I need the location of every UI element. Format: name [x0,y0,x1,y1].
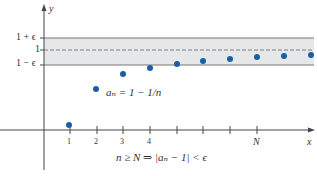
y-label-mid: 1 [35,43,40,54]
y-label-lower: 1 − ϵ [16,57,36,68]
tick-label-N: N [253,136,260,147]
tick-label-2: 2 [94,137,98,146]
formula-annotation: aₙ = 1 − 1/n [106,86,161,99]
y-axis-label: y [49,3,53,14]
tick-label-1: 1 [67,137,71,146]
implication-annotation: n ≥ N ⇒ |aₙ − 1| < ϵ [116,151,207,164]
epsilon-band [44,38,314,65]
y-label-upper: 1 + ϵ [16,31,36,42]
tick-label-4: 4 [147,137,151,146]
tick-label-3: 3 [120,137,124,146]
chart: y x 1 + ϵ 1 1 − ϵ 1 2 3 4 N aₙ = 1 − 1/n… [0,0,317,176]
x-axis-arrow-icon [308,128,315,133]
x-axis-label: x [307,136,311,147]
y-axis-arrow-icon [42,4,47,11]
